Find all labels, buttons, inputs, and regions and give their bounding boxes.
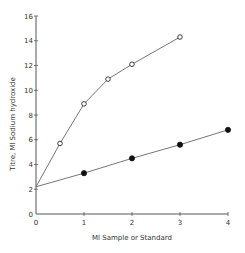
y-axis-title: Titre, Ml Sodium hydroxide	[9, 77, 17, 172]
y-tick-label: 0	[29, 211, 33, 219]
x-tick-label: 3	[178, 219, 182, 227]
axes: 024681012141601234	[24, 13, 231, 228]
y-tick-label: 14	[24, 37, 33, 45]
series-group	[36, 35, 231, 187]
filled-circle-marker	[129, 156, 134, 161]
open-circle-marker	[178, 35, 183, 40]
series-line-open-circles	[36, 37, 180, 187]
x-tick-label: 2	[130, 219, 134, 227]
open-circle-marker	[130, 62, 135, 67]
y-tick-label: 8	[29, 112, 33, 120]
x-axis-title: Ml Sample or Standard	[92, 234, 172, 242]
filled-circle-marker	[81, 171, 86, 176]
y-tick-label: 2	[29, 186, 33, 194]
filled-circle-marker	[225, 127, 230, 132]
chart: 024681012141601234 Ml Sample or Standard…	[0, 0, 245, 253]
y-tick-label: 4	[29, 161, 34, 169]
x-tick-label: 1	[82, 219, 86, 227]
x-tick-label: 4	[226, 219, 231, 227]
filled-circle-marker	[177, 142, 182, 147]
open-circle-marker	[58, 141, 63, 146]
open-circle-marker	[106, 77, 111, 82]
y-tick-label: 16	[24, 13, 33, 21]
x-tick-label: 0	[34, 219, 38, 227]
y-tick-label: 6	[29, 136, 34, 144]
y-tick-label: 12	[24, 62, 33, 70]
y-tick-label: 10	[24, 87, 33, 95]
open-circle-marker	[82, 102, 87, 107]
